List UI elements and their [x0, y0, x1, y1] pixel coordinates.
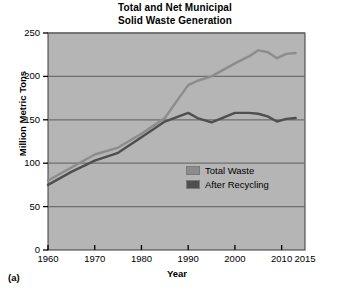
panel-label: (a) [8, 272, 20, 283]
legend-swatch-icon [186, 166, 200, 175]
x-axis-label: Year [48, 268, 306, 279]
figure-panel: Total and Net Municipal Solid Waste Gene… [0, 0, 345, 291]
y-axis-ticks [43, 33, 48, 250]
legend-label: Total Waste [205, 165, 254, 176]
chart-plot [0, 0, 345, 291]
x-tick-label: 2015 [285, 253, 325, 264]
x-tick-label: 1990 [168, 253, 208, 264]
x-tick-label: 1970 [75, 253, 115, 264]
legend-swatch-icon [186, 180, 200, 189]
plot-background [48, 33, 305, 250]
legend-label: After Recycling [205, 179, 269, 190]
x-tick-label: 2000 [215, 253, 255, 264]
y-tick-label: 250 [6, 27, 40, 38]
legend-item: After Recycling [186, 177, 269, 191]
y-axis-label: Million Metric Tons [17, 54, 28, 174]
legend-item: Total Waste [186, 163, 269, 177]
chart-legend: Total WasteAfter Recycling [186, 163, 269, 191]
x-tick-label: 1980 [121, 253, 161, 264]
y-tick-label: 50 [6, 201, 40, 212]
x-tick-label: 1960 [28, 253, 68, 264]
